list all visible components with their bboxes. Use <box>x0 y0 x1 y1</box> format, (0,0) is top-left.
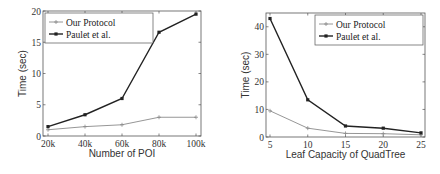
y-tick-label: 40 <box>255 22 265 32</box>
series-our-protocol <box>46 115 198 132</box>
legend-entry: Paulet et al. <box>336 32 381 42</box>
chart-leaf: 010203040510152025Leaf Capacity of QuadT… <box>240 13 426 160</box>
data-point <box>46 128 50 132</box>
y-tick-label: 0 <box>259 133 264 143</box>
y-tick-label: 5 <box>36 100 41 110</box>
data-point <box>194 13 197 16</box>
data-point <box>306 126 310 130</box>
data-point <box>268 109 272 113</box>
data-point <box>306 98 309 101</box>
y-tick-label: 30 <box>255 50 265 60</box>
series-our-protocol <box>268 109 423 137</box>
figure: 0510152020k40k60k80k100kNumber of POITim… <box>0 0 440 174</box>
legend: Our ProtocolPaulet et al. <box>45 13 153 43</box>
data-point <box>83 125 87 129</box>
y-axis-label: Time (sec) <box>17 50 28 97</box>
data-point <box>194 115 198 119</box>
data-point <box>157 115 161 119</box>
data-point <box>382 127 385 130</box>
x-axis-label: Leaf Capacity of QuadTree <box>286 149 406 160</box>
data-point <box>83 113 86 116</box>
y-tick-label: 10 <box>255 105 265 115</box>
y-axis-label: Time (sec) <box>240 52 251 99</box>
x-tick-label: 25 <box>416 140 426 150</box>
legend-entry: Our Protocol <box>66 18 116 28</box>
x-tick-label: 20k <box>41 139 56 149</box>
data-point <box>120 123 124 127</box>
y-tick-label: 15 <box>32 38 42 48</box>
data-point <box>381 132 385 136</box>
x-tick-label: 5 <box>268 140 273 150</box>
x-axis-label: Number of POI <box>89 148 156 159</box>
y-tick-label: 20 <box>255 77 265 87</box>
data-point <box>419 131 422 134</box>
y-tick-label: 10 <box>32 69 42 79</box>
data-point <box>157 31 160 34</box>
y-tick-label: 20 <box>32 7 42 17</box>
legend: Our ProtocolPaulet et al. <box>315 15 423 45</box>
chart-poi: 0510152020k40k60k80k100kNumber of POITim… <box>17 7 206 160</box>
data-point <box>344 131 348 135</box>
data-point <box>120 97 123 100</box>
data-point <box>268 17 271 20</box>
x-tick-label: 100k <box>187 139 206 149</box>
legend-entry: Our Protocol <box>336 20 386 30</box>
data-point <box>344 124 347 127</box>
data-point <box>46 125 49 128</box>
legend-entry: Paulet et al. <box>66 30 111 40</box>
